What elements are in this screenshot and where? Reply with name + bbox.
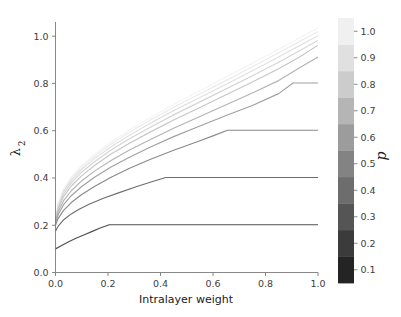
x-tick-label: 0.2 — [100, 278, 115, 289]
colorbar-tick-label: 0.2 — [361, 238, 376, 249]
y-tick-label: 1.0 — [33, 31, 48, 42]
x-tick-label: 0.6 — [205, 278, 220, 289]
colorbar-band — [338, 18, 354, 45]
x-axis-title: Intralayer weight — [139, 293, 234, 306]
y-tick-label: 0.6 — [33, 125, 48, 136]
x-tick-label: 0.8 — [258, 278, 273, 289]
colorbar-band — [338, 257, 354, 284]
colorbar-band — [338, 177, 354, 204]
y-tick-label: 0.0 — [33, 267, 48, 278]
colorbar-tick-label: 0.9 — [361, 52, 376, 63]
colorbar-band — [338, 204, 354, 231]
chart-figure: 0.00.20.40.60.81.0 0.00.20.40.60.81.0 In… — [0, 0, 401, 317]
colorbar — [338, 18, 354, 283]
colorbar-band — [338, 98, 354, 125]
y-tick-label: 0.4 — [33, 172, 48, 183]
colorbar-band — [338, 230, 354, 257]
colorbar-tick-label: 0.4 — [361, 185, 376, 196]
colorbar-tick-label: 0.1 — [361, 264, 376, 275]
colorbar-band — [338, 45, 354, 72]
colorbar-tick-label: 0.3 — [361, 211, 376, 222]
y-axis-title-lambda: λ — [8, 148, 23, 156]
y-axis-title-subscript: 2 — [17, 141, 27, 146]
y-tick-label: 0.8 — [33, 78, 48, 89]
colorbar-tick-label: 0.6 — [361, 132, 376, 143]
colorbar-title-text: p — [373, 151, 389, 160]
y-tick-label: 0.2 — [33, 220, 48, 231]
colorbar-band — [338, 71, 354, 98]
colorbar-band — [338, 124, 354, 151]
lambda2-vs-intralayer-weight-chart: 0.00.20.40.60.81.0 0.00.20.40.60.81.0 In… — [0, 0, 401, 317]
x-tick-label: 0.4 — [153, 278, 168, 289]
colorbar-title: p — [373, 151, 389, 160]
x-tick-label: 0.0 — [48, 278, 63, 289]
colorbar-band — [338, 151, 354, 178]
colorbar-tick-label: 0.7 — [361, 105, 376, 116]
colorbar-tick-label: 1.0 — [361, 26, 376, 37]
x-tick-label: 1.0 — [310, 278, 325, 289]
colorbar-tick-label: 0.8 — [361, 79, 376, 90]
